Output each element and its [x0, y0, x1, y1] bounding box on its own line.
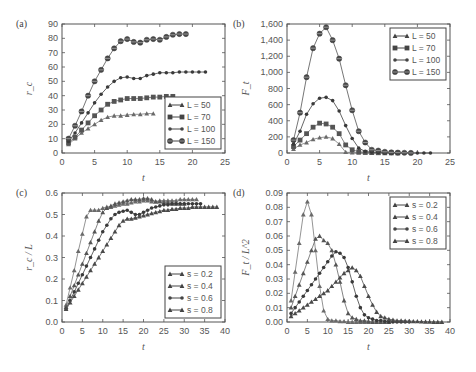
legend-marker — [393, 46, 398, 51]
legend-label: s = 0.4 — [412, 212, 438, 222]
data-point — [359, 306, 363, 310]
legend-marker — [168, 115, 173, 120]
data-point — [113, 213, 117, 217]
data-point — [85, 264, 89, 268]
x-tick-label: 0 — [59, 157, 64, 167]
y-tick-label: 0.03 — [265, 274, 283, 284]
data-point — [298, 138, 303, 143]
data-point — [313, 248, 318, 252]
data-point — [166, 203, 170, 207]
figure: 05101520250102030405060708090(a)tr_cL = … — [0, 0, 476, 372]
x-tick-label: 40 — [220, 326, 230, 336]
x-tick-label: 10 — [323, 326, 333, 336]
data-point — [318, 96, 322, 100]
data-point — [178, 70, 182, 74]
y-tick-label: 400 — [268, 116, 283, 126]
data-point — [121, 219, 126, 223]
data-point — [289, 314, 294, 318]
data-point — [157, 95, 162, 100]
data-point — [97, 239, 101, 243]
y-tick-label: 0.4 — [45, 231, 58, 241]
data-point — [311, 125, 316, 130]
data-point — [337, 131, 342, 136]
data-point — [174, 202, 178, 206]
y-tick-label: 0.00 — [265, 317, 283, 327]
data-point — [306, 289, 310, 293]
y-tick-label: 0.01 — [265, 303, 283, 313]
data-point — [154, 205, 158, 209]
data-point — [109, 217, 113, 221]
series-line — [294, 123, 398, 153]
panel-b: 051015202502004006008001,0001,2001,4001,… — [233, 18, 455, 183]
legend-label: L = 70 — [187, 112, 211, 122]
y-tick-label: 200 — [268, 132, 283, 142]
data-point — [302, 294, 306, 298]
x-tick-label: 25 — [220, 157, 230, 167]
y-tick-label: 600 — [268, 100, 283, 110]
data-point — [304, 131, 309, 136]
data-point — [84, 274, 89, 278]
data-point — [305, 199, 310, 203]
panel-c: 05101520253035400.00.10.20.30.40.50.6(c)… — [16, 187, 230, 352]
data-point — [187, 202, 191, 206]
y-tick-label: 20 — [48, 119, 58, 129]
data-point — [343, 143, 348, 148]
legend-label: L = 150 — [187, 136, 216, 146]
data-point — [344, 124, 348, 128]
data-point — [356, 149, 361, 154]
data-point — [383, 319, 387, 323]
data-point — [304, 140, 309, 144]
data-point — [138, 96, 143, 101]
data-point — [350, 280, 354, 284]
data-point — [76, 287, 81, 291]
x-axis-label: t — [142, 172, 145, 183]
data-point — [96, 255, 101, 259]
series-s-0-2 — [289, 199, 371, 324]
legend-marker — [168, 127, 172, 131]
data-point — [191, 70, 195, 74]
data-point — [81, 273, 85, 277]
data-point — [309, 248, 314, 252]
data-point — [89, 256, 93, 260]
data-point — [301, 305, 306, 309]
data-point — [197, 70, 201, 74]
y-tick-label: 0.6 — [45, 188, 58, 198]
data-point — [105, 102, 110, 107]
y-tick-label: 0.02 — [265, 288, 283, 298]
x-tick-label: 0 — [59, 326, 64, 336]
x-axis-label: t — [367, 172, 370, 183]
legend-label: s = 0.4 — [187, 281, 213, 291]
x-tick-label: 15 — [155, 157, 165, 167]
data-point — [325, 317, 330, 321]
data-point — [325, 241, 330, 245]
y-tick-label: 0.08 — [265, 202, 283, 212]
legend-marker — [405, 58, 409, 62]
x-tick-label: 5 — [80, 326, 85, 336]
data-point — [422, 151, 426, 155]
data-point — [354, 268, 359, 272]
y-tick-label: 0 — [53, 148, 58, 158]
x-tick-label: 25 — [159, 326, 169, 336]
y-tick-label: 0 — [278, 148, 283, 158]
data-point — [357, 146, 361, 150]
data-point — [350, 147, 355, 152]
x-tick-label: 20 — [412, 157, 422, 167]
data-point — [293, 269, 298, 273]
data-point — [305, 259, 310, 263]
x-tick-label: 10 — [122, 157, 132, 167]
data-point — [129, 211, 133, 215]
data-point — [171, 71, 175, 75]
y-tick-label: 80 — [48, 33, 58, 43]
data-point — [76, 249, 81, 253]
y-tick-label: 0.09 — [265, 188, 283, 198]
y-tick-label: 1,000 — [260, 67, 283, 77]
x-tick-label: 15 — [380, 157, 390, 167]
y-axis-label: F_t — [240, 81, 251, 96]
legend-label: s = 0.6 — [187, 293, 213, 303]
x-axis-label: t — [142, 341, 145, 352]
data-point — [301, 271, 306, 275]
data-point — [317, 284, 322, 288]
data-point — [370, 302, 375, 306]
data-point — [162, 203, 166, 207]
data-point — [146, 208, 150, 212]
